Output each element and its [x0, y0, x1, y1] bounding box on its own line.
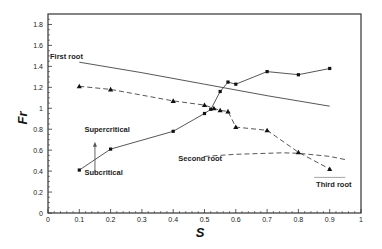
x-tick-label: 1 — [359, 216, 363, 223]
y-tick-label: 0 — [39, 210, 43, 217]
y-tick-label: 1 — [39, 105, 43, 112]
square-marker — [78, 168, 81, 171]
x-tick-label: 0.4 — [168, 216, 178, 223]
square-marker — [109, 148, 112, 151]
third-root-label: Third root — [316, 180, 352, 189]
y-tick-label: 1.6 — [33, 42, 43, 49]
y-tick-label: 0.8 — [33, 126, 43, 133]
y-tick-label: 1.4 — [33, 63, 43, 70]
triangle-marker — [233, 125, 238, 130]
x-tick-label: 0.3 — [137, 216, 147, 223]
triangle-marker — [171, 98, 176, 103]
x-axis-title: S — [196, 225, 205, 240]
y-tick-label: 1.2 — [33, 84, 43, 91]
x-axis: 00.10.20.30.40.50.60.70.80.91 — [46, 209, 363, 223]
x-tick-label: 0.7 — [262, 216, 272, 223]
y-tick-label: 0.4 — [33, 168, 43, 175]
supercritical-label: Supercritical — [84, 125, 129, 134]
triangle-marker — [265, 128, 270, 133]
arrow-up-icon — [93, 142, 97, 147]
triangle-marker — [218, 108, 223, 113]
square-marker — [172, 130, 175, 133]
x-tick-label: 0.8 — [294, 216, 304, 223]
x-tick-label: 0.6 — [231, 216, 241, 223]
triangle-marker — [296, 150, 301, 155]
x-tick-label: 0 — [46, 216, 50, 223]
x-tick-label: 0.2 — [106, 216, 116, 223]
x-tick-label: 0.1 — [74, 216, 84, 223]
square-marker — [328, 67, 331, 70]
y-axis-title: Fr — [15, 111, 30, 125]
square-marker — [203, 112, 206, 115]
y-tick-label: 0.6 — [33, 147, 43, 154]
y-tick-label: 1.8 — [33, 21, 43, 28]
triangle-marker — [225, 109, 230, 114]
x-tick-label: 0.9 — [325, 216, 335, 223]
series-line-1 — [205, 153, 346, 160]
square-marker — [219, 90, 222, 93]
subcritical-label: Subcritical — [84, 168, 122, 177]
square-marker — [234, 83, 237, 86]
annotations: First rootSupercriticalSubcriticalSecond… — [50, 52, 352, 189]
triangle-marker — [77, 84, 82, 89]
square-marker — [266, 70, 269, 73]
series-line-0 — [79, 62, 329, 106]
first-root-label: First root — [50, 52, 83, 61]
square-marker — [297, 73, 300, 76]
square-marker — [226, 80, 229, 83]
triangle-marker — [327, 166, 332, 171]
y-tick-label: 0.2 — [33, 189, 43, 196]
second-root-label: Second root — [178, 154, 222, 163]
triangle-marker — [108, 87, 113, 92]
y-axis: 00.20.40.60.811.21.41.61.8 — [33, 19, 52, 216]
chart: 00.10.20.30.40.50.60.70.80.91 00.20.40.6… — [0, 0, 382, 249]
x-tick-label: 0.5 — [200, 216, 210, 223]
